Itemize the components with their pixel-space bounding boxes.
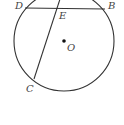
label-c: C — [26, 83, 34, 94]
circle-diagram: D B E O C — [0, 0, 124, 125]
chord-ec — [34, 0, 61, 79]
center-point-icon — [62, 39, 66, 43]
label-o: O — [67, 42, 75, 53]
chord-db — [25, 8, 105, 9]
label-e: E — [58, 10, 67, 21]
label-b: B — [107, 0, 115, 11]
label-d: D — [14, 0, 23, 11]
